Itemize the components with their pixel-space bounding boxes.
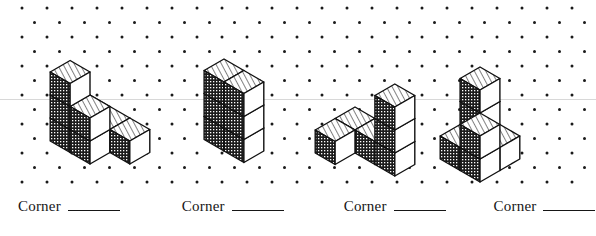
corner-labels-row: Corner Corner Corner Corner — [0, 198, 596, 230]
corner-label-2-blank[interactable] — [232, 209, 284, 211]
figure-4 — [440, 67, 520, 182]
corner-label-1-text: Corner — [18, 198, 61, 215]
corner-label-4-text: Corner — [494, 198, 537, 215]
corner-label-1: Corner — [18, 198, 120, 230]
corner-label-3-blank[interactable] — [394, 209, 446, 211]
corner-label-4: Corner — [494, 198, 596, 230]
figure-1 — [50, 61, 150, 165]
corner-label-2: Corner — [182, 198, 284, 230]
corner-label-1-blank[interactable] — [68, 209, 120, 211]
worksheet-canvas: Corner Corner Corner Corner — [0, 0, 596, 236]
corner-label-3: Corner — [344, 198, 446, 230]
figure-3 — [315, 84, 415, 176]
corner-label-3-text: Corner — [344, 198, 387, 215]
figure-2 — [204, 59, 264, 163]
corner-label-2-text: Corner — [182, 198, 225, 215]
corner-label-4-blank[interactable] — [543, 209, 595, 211]
